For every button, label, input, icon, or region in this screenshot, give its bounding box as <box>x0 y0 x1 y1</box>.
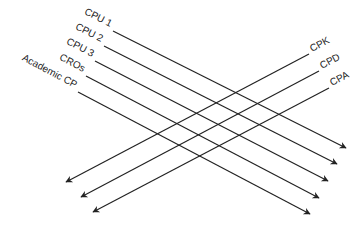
arrow-line-academic-cp <box>78 92 310 214</box>
arrow-line-cpd <box>81 71 319 197</box>
label-cpk: CPK <box>308 34 332 53</box>
crossing-arrows-diagram: CPU 1CPU 2CPU 3CROsAcademic CPCPKCPDCPA <box>0 0 364 227</box>
arrow-line-cpa <box>93 88 329 212</box>
diagram-canvas: CPU 1CPU 2CPU 3CROsAcademic CPCPKCPDCPA <box>0 0 364 227</box>
label-cpa: CPA <box>328 69 351 88</box>
label-cpd: CPD <box>318 51 342 71</box>
